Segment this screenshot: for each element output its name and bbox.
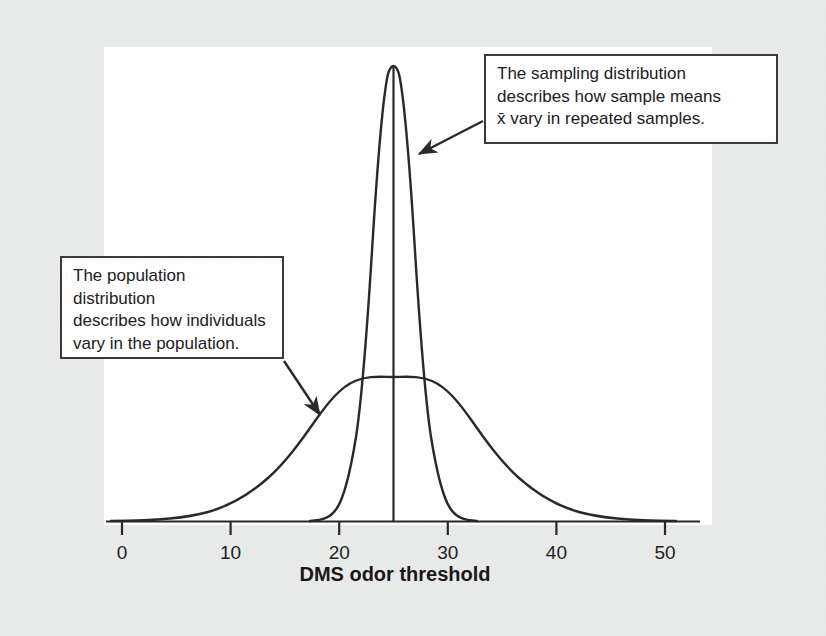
population-annotation-line-3: vary in the population. [73, 333, 272, 356]
x-tick-label-50: 50 [654, 542, 675, 563]
x-tick-label-20: 20 [329, 542, 350, 563]
x-tick-label-0: 0 [117, 542, 128, 563]
sampling-distribution-annotation: The sampling distribution describes how … [484, 54, 778, 144]
population-annotation-arrow [284, 361, 320, 415]
population-annotation-line-2: describes how individuals [73, 310, 272, 333]
population-distribution-annotation: The population distribution describes ho… [60, 256, 284, 359]
sampling-annotation-arrow [419, 121, 483, 154]
x-tick-label-30: 30 [437, 542, 458, 563]
x-tick-label-40: 40 [546, 542, 567, 563]
x-tick-label-10: 10 [220, 542, 241, 563]
sampling-annotation-line-3: x̄ vary in repeated samples. [497, 108, 766, 131]
population-annotation-line-1: The population distribution [73, 265, 272, 310]
sampling-annotation-line-1: The sampling distribution [497, 63, 766, 86]
sampling-annotation-line-2: describes how sample means [497, 86, 766, 109]
figure-root: 0 10 20 30 40 50 DMS odor threshold The … [0, 0, 826, 636]
x-axis-title: DMS odor threshold [299, 563, 490, 585]
x-axis-ticks [122, 522, 665, 536]
